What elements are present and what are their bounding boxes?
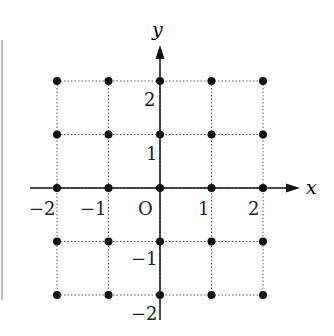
lattice-point: [208, 184, 216, 192]
lattice-point: [53, 77, 61, 85]
lattice-point: [156, 291, 164, 299]
lattice-point: [105, 131, 113, 139]
y-tick-neg2: −2: [131, 303, 158, 324]
lattice-point: [105, 184, 113, 192]
y-axis: y: [151, 18, 165, 320]
lattice-point: [208, 291, 216, 299]
lattice-point: [53, 131, 61, 139]
lattice-point: [208, 77, 216, 85]
lattice-point: [105, 77, 113, 85]
lattice-point: [259, 77, 267, 85]
lattice-point: [259, 238, 267, 246]
coordinate-plane: x y O −2 −1 1 2 2 1 −1 −2: [0, 0, 334, 336]
lattice-point: [259, 184, 267, 192]
lattice-point: [259, 291, 267, 299]
y-tick-2: 2: [144, 89, 155, 110]
x-tick-2: 2: [248, 198, 259, 219]
y-tick-1: 1: [146, 143, 157, 164]
lattice-point: [208, 131, 216, 139]
y-tick-neg1: −1: [131, 248, 158, 269]
lattice-point: [53, 184, 61, 192]
lattice-point: [156, 184, 164, 192]
x-tick-neg2: −2: [29, 198, 56, 219]
x-tick-neg1: −1: [80, 198, 107, 219]
x-axis-label: x: [306, 176, 317, 198]
x-axis-arrow-icon: [286, 184, 300, 193]
lattice-point: [259, 131, 267, 139]
lattice-point: [156, 77, 164, 85]
y-axis-label: y: [151, 18, 163, 40]
origin-label: O: [138, 198, 153, 219]
lattice-point: [53, 238, 61, 246]
lattice-point: [208, 238, 216, 246]
lattice-point: [53, 291, 61, 299]
lattice-point: [156, 131, 164, 139]
lattice-point: [105, 238, 113, 246]
x-axis: x: [30, 176, 317, 198]
y-axis-arrow-icon: [156, 45, 165, 59]
lattice-point: [156, 238, 164, 246]
lattice-point: [105, 291, 113, 299]
x-tick-1: 1: [198, 198, 209, 219]
